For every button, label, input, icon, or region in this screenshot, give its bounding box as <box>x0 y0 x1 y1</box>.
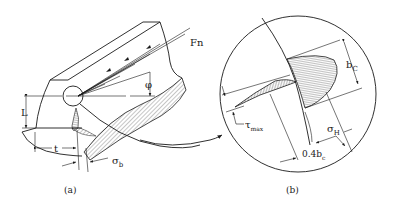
height-label: L <box>21 107 28 118</box>
root-stress-region <box>72 108 79 131</box>
magnified-circle <box>220 16 376 172</box>
bending-stress-label: σb <box>112 155 124 169</box>
shear-stress-label: τmax <box>245 119 264 132</box>
pressure-angle-label: φ <box>145 79 152 90</box>
thickness-label: t <box>54 143 58 154</box>
force-label: Fn <box>190 37 204 48</box>
caption-a: (a) <box>64 185 76 195</box>
depth-label: 0.4bc <box>302 149 326 161</box>
hertz-stress-label: σH <box>327 123 340 137</box>
shear-stress-distribution <box>235 80 296 107</box>
contact-width-label: bC <box>346 59 358 73</box>
panel-a: Fn φ L t σb (a) <box>21 22 222 195</box>
caption-b: (b) <box>286 185 299 195</box>
gear-tooth-stress-diagram: Fn φ L t σb (a) <box>0 0 395 207</box>
detail-connector-arrow <box>140 135 222 145</box>
panel-b: bC τmax 0.4bc σH (b) <box>220 16 376 195</box>
